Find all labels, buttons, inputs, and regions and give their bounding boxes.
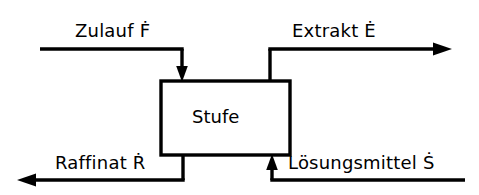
extract-stream-label: Extrakt Ė xyxy=(292,22,376,40)
stage-unit-label: Stufe xyxy=(192,108,239,126)
raffinate-stream-label: Raffinat Ṙ xyxy=(55,154,146,172)
process-flow-diagram: Zulauf Ḟ Extrakt Ė Raffinat Ṙ Lösungsmit… xyxy=(0,0,479,195)
feed-stream-label: Zulauf Ḟ xyxy=(75,22,150,40)
extract-arrowhead-icon xyxy=(433,42,452,55)
solvent-stream-label: Lösungsmittel Ṡ xyxy=(288,154,435,172)
raffinate-arrowhead-icon xyxy=(17,173,36,186)
